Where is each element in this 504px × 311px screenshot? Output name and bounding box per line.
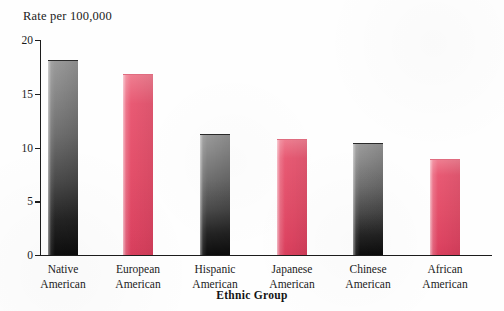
- y-tick-mark: [35, 255, 41, 256]
- bar-japanese-american: [277, 139, 307, 255]
- x-axis-line: [40, 255, 492, 256]
- y-tick-label: 15: [22, 88, 34, 100]
- bar-african-american: [430, 159, 460, 255]
- chart-figure: Rate per 100,000 0 5 10 15 20: [0, 0, 504, 311]
- bar-chinese-american: [353, 143, 383, 255]
- y-tick-label: 20: [22, 34, 34, 46]
- y-axis-title: Rate per 100,000: [23, 9, 112, 24]
- y-tick-mark: [35, 94, 41, 95]
- bar-hispanic-american: [200, 134, 230, 255]
- plot-area: 0 5 10 15 20 Native American: [40, 40, 492, 255]
- y-tick-mark: [35, 201, 41, 202]
- y-tick-label: 10: [22, 142, 34, 154]
- y-tick-label: 0: [27, 249, 33, 261]
- y-tick-mark: [35, 40, 41, 41]
- y-tick-mark: [35, 148, 41, 149]
- y-tick-label: 5: [27, 195, 33, 207]
- bar-native-american: [48, 60, 78, 255]
- x-axis-title: Ethnic Group: [0, 289, 504, 301]
- x-tick-label-african-american: African American: [391, 262, 499, 291]
- bar-european-american: [123, 74, 153, 255]
